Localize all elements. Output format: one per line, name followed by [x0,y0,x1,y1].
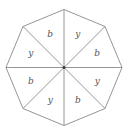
sector-label: b [75,95,81,105]
sector-label: y [27,48,34,58]
sector-label: b [28,76,34,86]
sector-label: b [94,48,100,58]
octagon-diagram: ybybybyb [0,0,128,132]
sector-label: y [94,76,101,86]
spoke-line [23,26,64,67]
sector-label: b [47,29,53,39]
spoke-line [64,68,105,109]
spoke-line [64,26,105,67]
sector-label: y [74,29,81,39]
center-point [63,66,66,69]
sector-label: y [47,95,54,105]
spoke-line [23,68,64,109]
